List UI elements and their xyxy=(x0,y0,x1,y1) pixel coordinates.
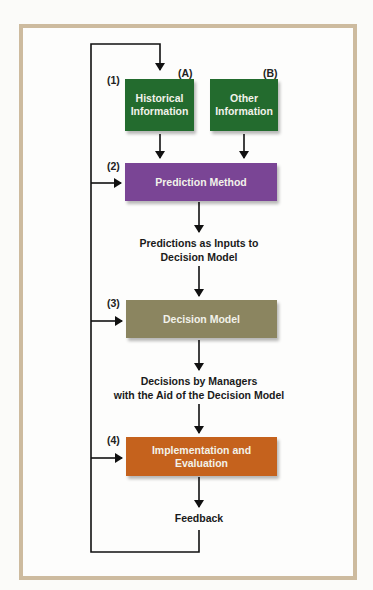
box-label-line: Implementation and xyxy=(152,444,251,457)
step-number-4: (4) xyxy=(107,434,120,446)
feedback-label: Feedback xyxy=(150,511,248,525)
step-number-3: (3) xyxy=(107,297,120,309)
box-label-line: Other xyxy=(230,92,258,105)
decisions-connector-text: Decisions by Managers with the Aid of th… xyxy=(90,374,308,402)
connector-line: with the Aid of the Decision Model xyxy=(90,388,308,402)
connector-line: Predictions as Inputs to xyxy=(100,236,298,250)
connector-line: Decision Model xyxy=(100,250,298,264)
tag-b: (B) xyxy=(263,67,278,79)
step-number-2: (2) xyxy=(107,160,120,172)
box-label-line: Evaluation xyxy=(175,457,228,470)
box-label-line: Information xyxy=(215,105,273,118)
other-information-box: Other Information xyxy=(210,79,278,131)
implementation-evaluation-box: Implementation and Evaluation xyxy=(126,437,277,476)
box-label-line: Historical xyxy=(136,92,184,105)
step-number-1: (1) xyxy=(107,74,120,86)
box-label-line: Information xyxy=(131,105,189,118)
prediction-method-box: Prediction Method xyxy=(125,163,277,201)
connector-line: Decisions by Managers xyxy=(90,374,308,388)
predictions-connector-text: Predictions as Inputs to Decision Model xyxy=(100,236,298,264)
tag-a: (A) xyxy=(178,67,193,79)
box-label: Prediction Method xyxy=(155,176,247,189)
historical-information-box: Historical Information xyxy=(125,79,194,131)
decision-model-box: Decision Model xyxy=(126,300,277,338)
box-label: Decision Model xyxy=(163,313,240,326)
